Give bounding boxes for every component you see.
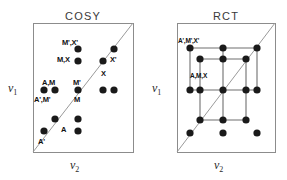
cross-peak-dot (186, 129, 193, 136)
peak-annotation: X (101, 69, 106, 78)
panel-title-rct: RCT (186, 10, 266, 22)
panel-cosy (33, 23, 134, 153)
cross-peak-dot (253, 44, 260, 51)
peak-annotation: A (61, 125, 66, 134)
x-axis-label-rct: v2 (214, 158, 223, 174)
cross-peak-dot (110, 45, 117, 52)
cross-peak-dot (219, 116, 226, 123)
cross-peak-dot (196, 116, 203, 123)
panel-border-cosy (34, 24, 134, 153)
axis-subscript: 2 (219, 165, 223, 174)
cross-peak-dot (99, 86, 106, 93)
cross-peak-dot (40, 86, 47, 93)
y-axis-label-rct: v1 (152, 81, 161, 97)
cross-peak-dot (51, 86, 58, 93)
cross-peak-dot (74, 57, 81, 64)
peak-annotation: M',X' (62, 38, 78, 47)
cross-peak-dot (196, 55, 203, 62)
cross-peak-dot (186, 86, 193, 93)
diagonal-line-cosy (33, 23, 133, 152)
peak-annotation: A,M (42, 78, 55, 87)
peak-annotation: A' (38, 137, 45, 146)
cross-peak-dot (242, 116, 249, 123)
cross-peak-dot (219, 86, 226, 93)
nmr-correlation-figure (0, 0, 287, 180)
axis-subscript: 2 (75, 165, 79, 174)
peak-annotation: X' (110, 55, 116, 64)
cross-peak-dot (196, 86, 203, 93)
cross-peak-dot (74, 127, 81, 134)
cross-peak-dot (186, 44, 193, 51)
peak-annotation: M' (73, 78, 81, 87)
peak-annotation: M (74, 95, 80, 104)
y-axis-label-cosy: v1 (8, 81, 17, 97)
cross-peak-dot (219, 44, 226, 51)
cross-peak-dot (253, 86, 260, 93)
peak-annotation: A,M,X (190, 72, 207, 79)
cross-peak-dot (74, 115, 81, 122)
cross-peak-dot (219, 129, 226, 136)
axis-subscript: 1 (13, 88, 17, 97)
cross-peak-dot (110, 86, 117, 93)
peak-annotation: A',M',X' (178, 37, 199, 44)
cross-peak-dot (242, 55, 249, 62)
cross-peak-dot (51, 115, 58, 122)
cross-peak-dot (219, 55, 226, 62)
peak-annotation: A',M' (34, 95, 50, 104)
cross-peak-dot (40, 127, 47, 134)
axis-subscript: 1 (157, 88, 161, 97)
cross-peak-dot (253, 129, 260, 136)
cross-peak-dot (242, 86, 249, 93)
peak-annotation: M,X (57, 55, 70, 64)
cross-peak-dot (74, 86, 81, 93)
panel-title-cosy: COSY (43, 10, 123, 22)
cross-peak-dot (99, 57, 106, 64)
x-axis-label-cosy: v2 (70, 158, 79, 174)
